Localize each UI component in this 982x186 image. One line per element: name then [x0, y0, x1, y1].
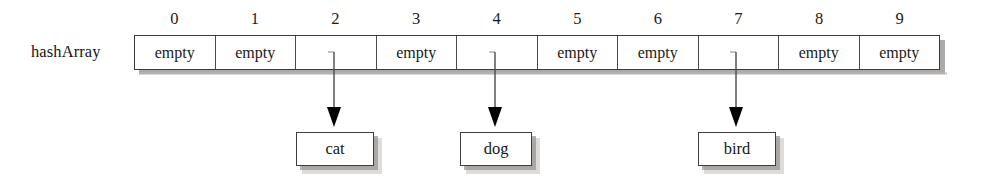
array-cell-6-text: empty [638, 45, 678, 61]
array-cell-5-text: empty [557, 45, 597, 61]
data-item-cat[interactable]: cat [296, 132, 374, 166]
array-cell-4[interactable] [457, 36, 538, 69]
array-cell-8-text: empty [799, 45, 839, 61]
array-cell-9-text: empty [879, 45, 919, 61]
data-item-dog[interactable]: dog [460, 132, 532, 166]
array-cell-6[interactable]: empty [618, 36, 699, 69]
array-index-5: 5 [537, 7, 618, 31]
array-index-2: 2 [295, 7, 376, 31]
data-item-cat-label: cat [325, 141, 344, 158]
hash-array-row: empty empty empty empty empty empty empt… [134, 35, 940, 70]
array-index-7: 7 [698, 7, 779, 31]
array-drop-shadow-fade [139, 72, 947, 75]
array-cell-3-text: empty [396, 45, 436, 61]
array-cell-2[interactable] [296, 36, 377, 69]
array-cell-5[interactable]: empty [538, 36, 619, 69]
data-item-dog-label: dog [484, 141, 509, 158]
data-item-bird-label: bird [724, 141, 751, 158]
arrowhead-cat [327, 107, 341, 127]
array-cell-7[interactable] [699, 36, 780, 69]
array-index-9: 9 [859, 7, 940, 31]
array-index-3: 3 [376, 7, 457, 31]
hash-array-diagram: hashArray 0 1 2 3 4 5 6 7 8 9 empty empt… [0, 0, 982, 186]
array-cell-0-text: empty [155, 45, 195, 61]
array-cell-8[interactable]: empty [779, 36, 860, 69]
array-index-1: 1 [215, 7, 296, 31]
array-cell-0[interactable]: empty [135, 36, 216, 69]
arrowhead-dog [488, 107, 502, 127]
data-item-bird[interactable]: bird [698, 132, 776, 166]
array-index-8: 8 [779, 7, 860, 31]
array-index-6: 6 [618, 7, 699, 31]
array-cell-9[interactable]: empty [860, 36, 940, 69]
array-index-4: 4 [456, 7, 537, 31]
array-cell-1[interactable]: empty [216, 36, 297, 69]
array-cell-3[interactable]: empty [377, 36, 458, 69]
array-cell-1-text: empty [235, 45, 275, 61]
array-index-0: 0 [134, 7, 215, 31]
arrowhead-bird [729, 107, 743, 127]
array-index-row: 0 1 2 3 4 5 6 7 8 9 [134, 7, 940, 31]
array-variable-label: hashArray [31, 42, 101, 62]
